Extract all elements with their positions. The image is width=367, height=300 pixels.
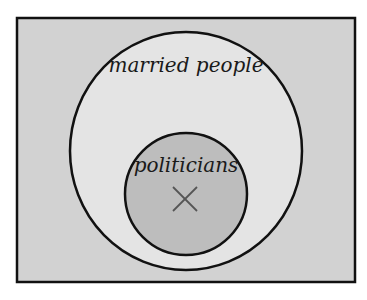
venn-diagram: married people politicians (0, 0, 367, 300)
politicians-label: politicians (134, 153, 239, 177)
politicians-set (125, 133, 247, 255)
married-people-label: married people (108, 53, 263, 77)
